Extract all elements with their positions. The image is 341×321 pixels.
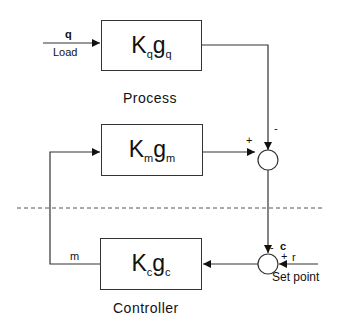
manipulated-variable-label: m [70,250,79,262]
controller-gain: Kcgc [131,250,170,278]
lower-junction-plus-sign: + [281,250,287,262]
load-label: Load [53,46,77,58]
lower-junction-minus-sign: - [270,241,274,253]
measurement-block: Kmgm [101,124,203,176]
process-caption: Process [123,90,177,106]
process-load-block: Kqgq [101,20,202,71]
setpoint-label: Set point [272,270,319,284]
upper-junction-plus-sign: + [246,134,252,146]
process-load-gain: Kqgq [131,32,171,60]
measurement-gain: Kmgm [129,136,175,164]
controller-block: Kcgc [100,238,202,290]
upper-junction-minus-sign: - [274,122,278,134]
load-symbol: q [65,28,72,40]
setpoint-symbol: r [292,251,296,263]
controller-caption: Controller [113,300,179,316]
